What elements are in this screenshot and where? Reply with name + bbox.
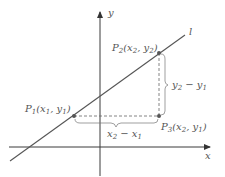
run-brace: [75, 119, 158, 127]
point-p3: [157, 114, 161, 118]
y-axis-label: y: [107, 7, 114, 18]
line-label: l: [189, 26, 192, 37]
p2-label: P2(x2, y2): [111, 42, 158, 55]
point-p1: [72, 114, 76, 118]
rise-label: y2 − y1: [171, 79, 207, 92]
rise-brace: [161, 54, 168, 115]
x-axis-label: x: [205, 150, 211, 161]
p3-label: P3(x2, y1): [160, 121, 207, 134]
run-label: x2 − x1: [107, 128, 142, 141]
slope-diagram: y x l P2(x2, y2) P1(x1, y1) P3(x2, y1) x…: [0, 0, 225, 177]
p1-label: P1(x1, y1): [24, 103, 71, 116]
